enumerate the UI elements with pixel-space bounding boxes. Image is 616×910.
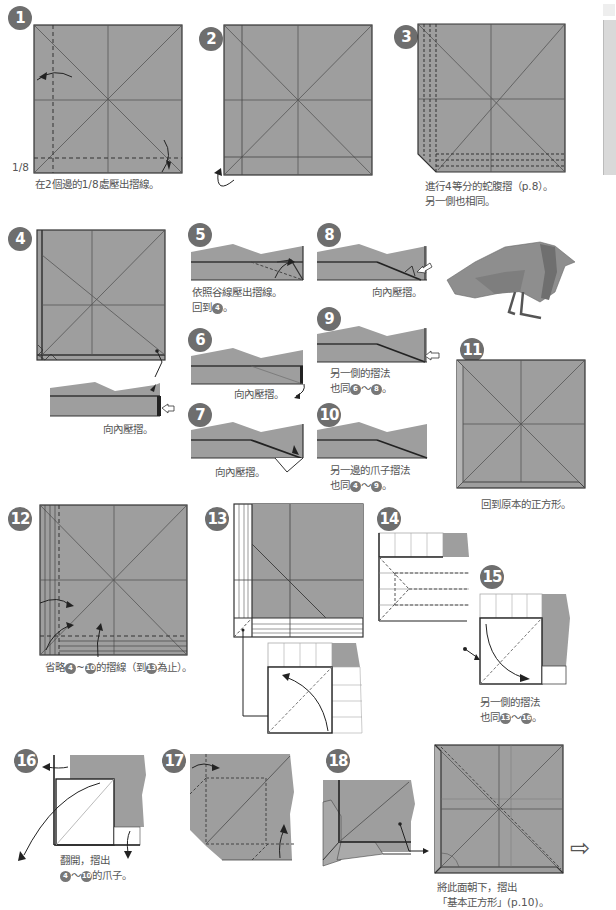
step-4-caption: 向內壓摺。 — [103, 421, 153, 437]
step-5-caption-line1: 依照谷線壓出摺線。 — [192, 284, 282, 300]
step-badge-12: 12 — [8, 507, 32, 531]
step-badge-11: 11 — [460, 338, 484, 362]
step-2-diagram — [224, 25, 374, 177]
ref-step-4-icon: 4 — [350, 481, 361, 492]
step-badge-1: 1 — [8, 6, 32, 30]
ref-step-13-icon: 13 — [500, 713, 511, 724]
step-10-caption-line1: 另一邊的爪子摺法 — [330, 462, 410, 478]
side-tab — [603, 20, 616, 175]
step-17-diagram — [190, 754, 300, 864]
step-16-caption-line1: 翻開，摺出 — [60, 852, 110, 868]
ref-step-8-icon: 8 — [371, 384, 382, 395]
step-9-caption-line2: 也同6～8。 — [330, 380, 392, 396]
step-1-diagram — [34, 25, 184, 175]
step-1-fraction-label: 1/8 — [12, 159, 29, 175]
step-10-caption-line2: 也同4～9。 — [330, 477, 392, 493]
step-19-caption-line1: 將此面朝下，摺出 — [437, 879, 517, 895]
step-10-diagram — [317, 420, 432, 460]
step-3-diagram — [418, 24, 568, 176]
step-8-diagram — [317, 242, 432, 282]
step-9-diagram — [317, 324, 442, 364]
step-badge-15: 15 — [480, 565, 504, 589]
step-3-caption-line2: 另一側也相同。 — [425, 193, 495, 209]
step-14-diagram — [379, 533, 479, 633]
step-15-caption-line1: 另一側的摺法 — [480, 694, 540, 710]
ref-step-4-icon: 4 — [65, 663, 76, 674]
step-15-diagram — [480, 594, 575, 694]
step-13-detail — [268, 643, 363, 733]
step-8-caption: 向內壓摺。 — [372, 284, 422, 300]
ref-step-13-icon: 13 — [146, 663, 157, 674]
step-5-diagram — [191, 242, 306, 282]
finished-model-photo — [445, 232, 580, 332]
step-6-arrow-icon — [292, 384, 312, 400]
step-5-caption-line2: 回到4。 — [192, 299, 233, 315]
step-badge-4: 4 — [8, 227, 32, 251]
step-12-diagram — [40, 505, 190, 657]
step-1-caption: 在2個邊的1/8處壓出摺線。 — [35, 176, 159, 192]
step-3-caption-line1: 進行4等分的蛇腹摺（p.8）。 — [425, 178, 553, 194]
step-6-diagram — [191, 346, 306, 386]
ref-step-9-icon: 9 — [371, 481, 382, 492]
step-11-caption: 回到原本的正方形。 — [481, 496, 571, 512]
step-19-diagram — [435, 745, 565, 880]
step-6-caption: 向內壓摺。 — [234, 386, 284, 402]
step-19-caption-line2: 「基本正方形」(p.10)。 — [437, 894, 549, 910]
step-11-diagram — [457, 360, 587, 492]
side-tab-top — [603, 4, 615, 16]
ref-step-6-icon: 6 — [350, 384, 361, 395]
step-badge-2: 2 — [199, 27, 223, 51]
step-18-diagram — [323, 780, 443, 860]
ref-step-16-icon: 16 — [521, 713, 532, 724]
ref-step-4-icon: 4 — [212, 303, 223, 314]
step-badge-14: 14 — [377, 507, 401, 531]
step-badge-13: 13 — [205, 507, 229, 531]
step-12-caption: 省略4~10的摺線（到13為止）。 — [45, 659, 192, 675]
step-4-diagram — [37, 230, 167, 362]
step-9-caption-line1: 另一側的摺法 — [330, 365, 390, 381]
step-badge-18: 18 — [326, 749, 350, 773]
step-16-caption-line2: 4～10的爪子。 — [60, 867, 132, 883]
step-badge-3: 3 — [394, 25, 418, 49]
step-16-diagram — [54, 755, 154, 855]
ref-step-10-icon: 10 — [81, 871, 92, 882]
next-page-arrow-icon: ⇨ — [570, 836, 590, 860]
ref-step-4-icon: 4 — [60, 871, 71, 882]
step-13-diagram — [234, 504, 364, 639]
step-badge-16: 16 — [14, 749, 38, 773]
step-4-detail — [50, 378, 175, 418]
step-badge-17: 17 — [162, 749, 186, 773]
step-15-caption-line2: 也同13～16。 — [480, 709, 542, 725]
ref-step-10-icon: 10 — [85, 663, 96, 674]
step-7-caption: 向內壓摺。 — [215, 464, 265, 480]
